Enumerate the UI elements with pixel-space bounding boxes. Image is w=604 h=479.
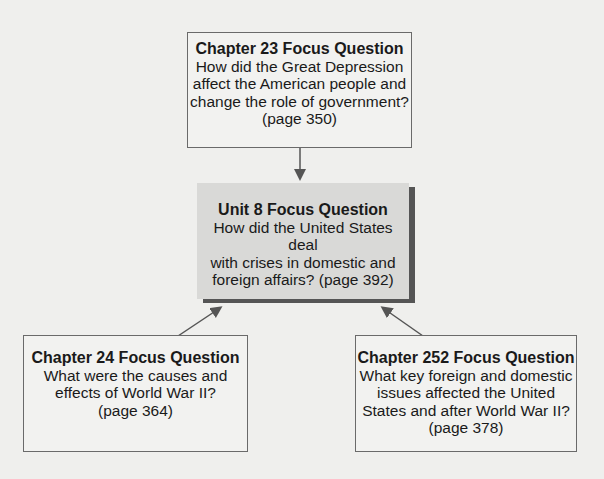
box-line: How did the Great Depression	[188, 58, 411, 76]
unit-8-box: Unit 8 Focus Question How did the United…	[197, 183, 409, 299]
chapter-23-box: Chapter 23 Focus Question How did the Gr…	[187, 32, 412, 148]
box-line: States and after World War II?	[356, 402, 576, 420]
chapter-252-box: Chapter 252 Focus Question What key fore…	[355, 335, 577, 452]
box-line: How did the United States deal	[197, 219, 409, 254]
box-line: (page 350)	[188, 110, 411, 128]
box-title: Chapter 24 Focus Question	[24, 349, 247, 367]
box-title: Unit 8 Focus Question	[197, 201, 409, 219]
box-line: affect the American people and	[188, 75, 411, 93]
box-line: What key foreign and domestic	[356, 367, 576, 385]
box-title: Chapter 252 Focus Question	[356, 349, 576, 367]
arrow-right-to-unit	[383, 308, 423, 336]
box-title: Chapter 23 Focus Question	[188, 40, 411, 58]
box-line: with crises in domestic and	[197, 254, 409, 272]
box-line: (page 364)	[24, 402, 247, 420]
arrow-left-to-unit	[178, 308, 220, 336]
box-line: What were the causes and	[24, 367, 247, 385]
chapter-24-box: Chapter 24 Focus Question What were the …	[23, 335, 248, 452]
box-line: effects of World War II?	[24, 384, 247, 402]
box-line: issues affected the United	[356, 384, 576, 402]
box-line: change the role of government?	[188, 93, 411, 111]
box-line: foreign affairs? (page 392)	[197, 271, 409, 289]
box-line: (page 378)	[356, 419, 576, 437]
